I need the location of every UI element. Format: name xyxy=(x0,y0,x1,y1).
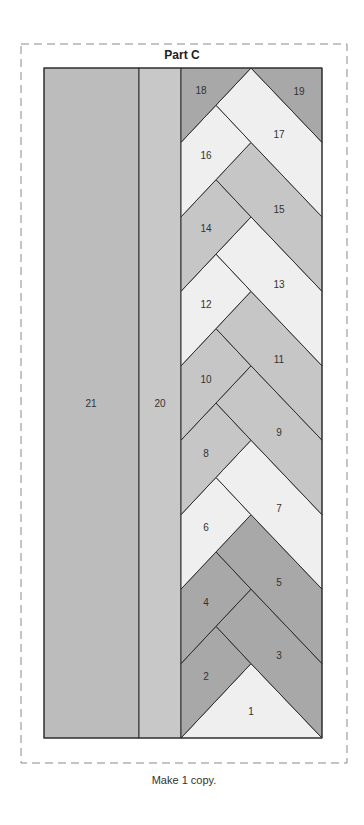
foundation-piecing-pattern: 212012345678910111213141516171819 xyxy=(0,0,364,825)
piece-label-7: 7 xyxy=(276,503,282,514)
piece-label-10: 10 xyxy=(200,374,212,385)
braid-pieces xyxy=(181,68,322,738)
piece-label-15: 15 xyxy=(273,204,285,215)
piece-label-8: 8 xyxy=(203,448,209,459)
piece-label-2: 2 xyxy=(203,671,209,682)
copy-instruction: Make 1 copy. xyxy=(0,774,364,786)
piece-label-3: 3 xyxy=(276,650,282,661)
piece-label-18: 18 xyxy=(195,85,207,96)
piece-label-9: 9 xyxy=(276,427,282,438)
piece-label-14: 14 xyxy=(200,223,212,234)
piece-label-13: 13 xyxy=(273,279,285,290)
piece-label-11: 11 xyxy=(274,354,285,365)
piece-label-19: 19 xyxy=(293,86,305,97)
piece-label-21: 21 xyxy=(85,398,97,409)
piece-label-17: 17 xyxy=(273,129,285,140)
piece-label-20: 20 xyxy=(154,398,166,409)
piece-label-6: 6 xyxy=(203,522,209,533)
piece-label-16: 16 xyxy=(200,150,212,161)
piece-label-12: 12 xyxy=(200,299,212,310)
piece-label-5: 5 xyxy=(276,577,282,588)
piece-label-1: 1 xyxy=(248,706,254,717)
piece-label-4: 4 xyxy=(203,597,209,608)
